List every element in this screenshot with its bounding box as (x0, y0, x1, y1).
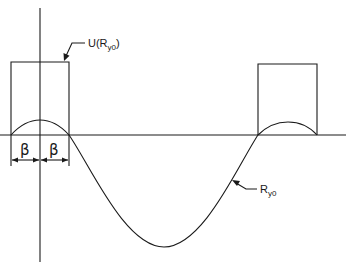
arrowhead-icon (41, 158, 47, 163)
beta-label-left: β (20, 141, 30, 159)
arrowhead-icon (12, 158, 18, 163)
correlation-window-diagram: U(Ry0) Ry0 β β (0, 0, 356, 271)
arrowhead-icon (62, 158, 68, 163)
arrowhead-icon (33, 158, 39, 163)
right-window-box (258, 64, 317, 135)
beta-label-right: β (49, 141, 59, 159)
curve-label-leader (236, 183, 257, 189)
window-label-leader (66, 43, 85, 56)
correlation-curve (11, 120, 317, 247)
window-function-label: U(Ry0) (88, 37, 120, 52)
curve-label: Ry0 (260, 183, 277, 198)
